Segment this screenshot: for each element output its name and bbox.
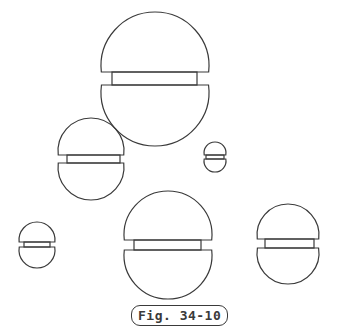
screw-slot [112, 72, 197, 85]
screw-head-top-cap [257, 204, 319, 239]
screw-head-bottom-cap [101, 85, 209, 146]
screw-head-large-bottom [124, 191, 212, 299]
screw-slot [134, 240, 201, 250]
screw-head-top-cap [19, 222, 55, 242]
screw-head-large-top [101, 12, 209, 146]
screw-head-top-cap [204, 142, 226, 155]
screw-head-bottom-cap [19, 247, 55, 268]
screw-head-medium-right [257, 204, 319, 284]
screw-head-top-cap [124, 191, 212, 240]
screw-head-top-cap [101, 12, 209, 72]
screw-slot [24, 242, 50, 247]
screw-head-medium-left [58, 118, 124, 200]
screw-head-bottom-cap [124, 250, 212, 299]
screw-slot [67, 155, 120, 163]
screw-head-small-left [19, 222, 55, 268]
screw-heads-diagram [0, 0, 339, 336]
screw-head-bottom-cap [58, 163, 124, 200]
screw-slot [265, 239, 314, 248]
screw-head-top-cap [58, 118, 124, 155]
screw-head-small-center [204, 142, 226, 172]
figure-caption: Fig. 34-10 [131, 305, 228, 326]
screw-head-bottom-cap [204, 159, 226, 172]
screw-head-bottom-cap [257, 248, 319, 284]
